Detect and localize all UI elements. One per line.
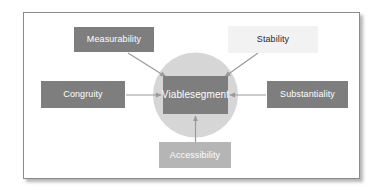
arrow-measurability — [128, 53, 166, 77]
center-node-label-line1: Viable — [162, 89, 190, 100]
criterion-label-measurability: Measurability — [87, 34, 141, 44]
center-node-viable-segment: Viable segment — [163, 76, 228, 114]
criterion-node-substantiality: Substantiality — [267, 81, 348, 108]
diagram-root: Viable segment Measurability Stability C… — [0, 0, 384, 195]
criterion-node-accessibility: Accessibility — [159, 142, 231, 168]
arrow-stability — [225, 53, 258, 77]
criterion-node-stability: Stability — [228, 26, 318, 53]
criterion-node-congruity: Congruity — [41, 81, 125, 108]
criterion-label-congruity: Congruity — [63, 89, 102, 99]
criterion-label-stability: Stability — [257, 34, 289, 44]
criterion-label-accessibility: Accessibility — [170, 150, 220, 160]
criterion-node-measurability: Measurability — [74, 27, 154, 52]
criterion-label-substantiality: Substantiality — [280, 89, 335, 99]
center-node-label-line2: segment — [190, 89, 229, 100]
